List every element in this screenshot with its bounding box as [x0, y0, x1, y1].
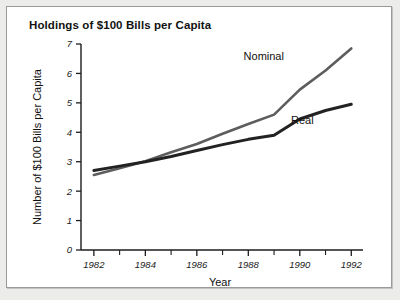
y-tick-label: 7: [67, 38, 73, 49]
y-tick-label: 3: [67, 156, 73, 167]
y-axis-title: Number of $100 Bills per Capita: [31, 68, 43, 225]
data-series-group: [94, 48, 351, 175]
x-tick-label: 1992: [341, 259, 363, 270]
line-chart-plot: 01234567 198219841986198819901992 Nomina…: [7, 7, 393, 289]
series-label-nominal: Nominal: [244, 50, 284, 62]
x-tick-label: 1988: [238, 259, 260, 270]
x-tick-label: 1986: [186, 259, 208, 270]
x-tick-label: 1982: [83, 259, 105, 270]
series-line-nominal: [94, 48, 351, 175]
y-tick-label: 5: [67, 97, 73, 108]
x-tick-label: 1990: [289, 259, 311, 270]
y-tick-label: 2: [66, 186, 73, 197]
y-tick-label: 4: [67, 127, 72, 138]
chart-figure: Holdings of $100 Bills per Capita 012345…: [6, 6, 392, 288]
y-tick-label: 6: [67, 68, 73, 79]
y-tick-label: 1: [67, 215, 72, 226]
series-label-real: Real: [291, 114, 314, 126]
x-axis-ticks: 198219841986198819901992: [83, 250, 362, 270]
x-tick-label: 1984: [135, 259, 156, 270]
y-tick-label: 0: [67, 244, 73, 255]
y-axis-ticks: 01234567: [66, 38, 81, 255]
x-axis-title: Year: [209, 276, 232, 288]
